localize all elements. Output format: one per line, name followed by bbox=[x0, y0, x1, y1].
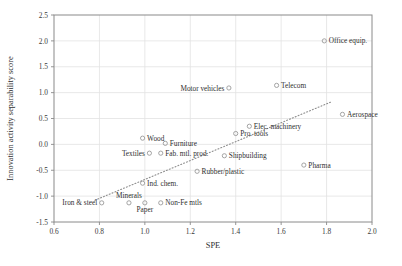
data-point-13: Ind. chem. bbox=[140, 179, 178, 188]
point-label: Fab. mtl. prod. bbox=[165, 149, 208, 158]
point-label: Furniture bbox=[170, 139, 197, 148]
y-tick-label: -1.5 bbox=[36, 218, 48, 227]
x-tick-label: 1.4 bbox=[231, 227, 241, 236]
point-marker bbox=[159, 151, 163, 155]
point-marker bbox=[195, 169, 199, 173]
data-point-12: Rubber/plastic bbox=[195, 167, 245, 176]
y-axis-ticks: 2.52.01.51.00.50.0-0.5-1.0-1.5 bbox=[36, 11, 54, 227]
data-point-9: Fab. mtl. prod. bbox=[159, 149, 209, 158]
x-tick-label: 1.6 bbox=[277, 227, 287, 236]
y-tick-label: 0.5 bbox=[39, 114, 49, 123]
data-point-5: Pro. tools bbox=[234, 129, 269, 138]
point-label: Shipbuilding bbox=[229, 151, 267, 160]
data-point-2: Motor vehicles bbox=[180, 84, 231, 93]
point-marker bbox=[247, 124, 251, 128]
data-point-10: Shipbuilding bbox=[222, 151, 267, 160]
x-tick-label: 0.8 bbox=[95, 227, 105, 236]
point-label: Pharma bbox=[308, 161, 331, 170]
point-marker bbox=[222, 154, 226, 158]
data-point-3: Aerospace bbox=[340, 110, 377, 119]
x-tick-label: 1.8 bbox=[322, 227, 332, 236]
grid-lines bbox=[54, 15, 372, 222]
point-marker bbox=[159, 201, 163, 205]
data-point-8: Textiles bbox=[122, 149, 152, 158]
point-marker bbox=[163, 141, 167, 145]
data-point-0: Office equip. bbox=[322, 36, 367, 45]
point-label: Textiles bbox=[122, 149, 145, 158]
point-label: Minerals bbox=[116, 191, 142, 200]
point-label: Office equip. bbox=[329, 36, 368, 45]
x-tick-label: 2.0 bbox=[367, 227, 377, 236]
point-label: Paper bbox=[137, 205, 154, 214]
point-marker bbox=[100, 201, 104, 205]
point-label: Iron & steel bbox=[62, 198, 97, 207]
point-label: Ind. chem. bbox=[147, 179, 178, 188]
data-points: Office equip.TelecomMotor vehiclesAerosp… bbox=[62, 36, 377, 214]
x-axis-title: SPE bbox=[206, 241, 220, 250]
data-point-6: Wood bbox=[140, 134, 164, 143]
scatter-plot-figure: 0.60.81.01.21.41.61.82.0 2.52.01.51.00.5… bbox=[0, 0, 402, 266]
y-tick-label: 0.0 bbox=[39, 140, 49, 149]
plot-canvas: 0.60.81.01.21.41.61.82.0 2.52.01.51.00.5… bbox=[0, 0, 402, 266]
point-marker bbox=[302, 163, 306, 167]
x-tick-label: 1.2 bbox=[186, 227, 196, 236]
x-axis-ticks: 0.60.81.01.21.41.61.82.0 bbox=[49, 222, 377, 236]
y-tick-label: 2.5 bbox=[39, 11, 49, 20]
point-marker bbox=[140, 136, 144, 140]
point-marker bbox=[275, 83, 279, 87]
data-point-1: Telecom bbox=[275, 81, 307, 90]
y-tick-label: -1.0 bbox=[36, 192, 48, 201]
point-marker bbox=[127, 201, 131, 205]
x-tick-label: 1.0 bbox=[140, 227, 150, 236]
data-point-7: Furniture bbox=[163, 139, 197, 148]
point-label: Wood bbox=[147, 134, 165, 143]
data-point-17: Non-Fe mtls bbox=[159, 198, 202, 207]
y-tick-label: 1.5 bbox=[39, 62, 49, 71]
point-marker bbox=[140, 181, 144, 185]
y-tick-label: 1.0 bbox=[39, 88, 49, 97]
x-tick-label: 0.6 bbox=[49, 227, 59, 236]
data-point-15: Iron & steel bbox=[62, 198, 103, 207]
y-tick-label: -0.5 bbox=[36, 166, 48, 175]
data-point-11: Pharma bbox=[302, 161, 332, 170]
point-label: Non-Fe mtls bbox=[165, 198, 202, 207]
point-marker bbox=[147, 151, 151, 155]
data-point-14: Minerals bbox=[116, 191, 142, 205]
point-label: Pro. tools bbox=[240, 129, 268, 138]
point-marker bbox=[227, 86, 231, 90]
point-label: Motor vehicles bbox=[180, 84, 224, 93]
y-tick-label: 2.0 bbox=[39, 37, 49, 46]
y-axis-title: Innovation activity separability score bbox=[6, 56, 15, 181]
point-marker bbox=[340, 112, 344, 116]
point-label: Telecom bbox=[281, 81, 306, 90]
point-label: Rubber/plastic bbox=[202, 167, 245, 176]
point-label: Aerospace bbox=[347, 110, 378, 119]
